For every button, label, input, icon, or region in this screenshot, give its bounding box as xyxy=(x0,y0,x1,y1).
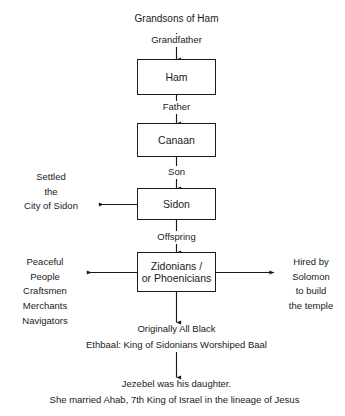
node-canaan-label: Canaan xyxy=(158,134,195,146)
node-zidonians[interactable]: Zidonians / or Phoenicians xyxy=(137,252,216,292)
note-jezebel-ahab: She married Ahab, 7th King of Israel in … xyxy=(22,393,327,407)
note-originally-all-black: Originally All Black xyxy=(96,322,257,336)
diagram-title: Grandsons of Ham xyxy=(96,12,257,26)
node-sidon-label: Sidon xyxy=(163,198,190,210)
side-note-settled-sidon: Settled the City of Sidon xyxy=(5,170,97,214)
edge-label-father: Father xyxy=(141,101,212,114)
node-ham[interactable]: Ham xyxy=(137,59,216,95)
node-canaan[interactable]: Canaan xyxy=(137,123,216,157)
node-zidonians-label: Zidonians / or Phoenicians xyxy=(142,260,211,285)
note-jezebel-daughter: Jezebel was his daughter. xyxy=(96,377,257,391)
edge-label-grandfather: Grandfather xyxy=(126,34,227,47)
side-note-hired-by-solomon: Hired by Solomon to build the temple xyxy=(279,255,343,314)
edge-label-son: Son xyxy=(151,166,202,179)
genealogy-flowchart: Grandsons of Ham Grandfather Father Son … xyxy=(0,0,345,416)
note-ethbaal: Ethbaal: King of Sidonians Worshiped Baa… xyxy=(45,338,308,352)
edge-label-offspring: Offspring xyxy=(136,231,217,244)
node-sidon[interactable]: Sidon xyxy=(137,188,216,220)
node-ham-label: Ham xyxy=(165,71,187,83)
side-note-peaceful-people: Peaceful People Craftsmen Merchants Navi… xyxy=(5,255,85,329)
